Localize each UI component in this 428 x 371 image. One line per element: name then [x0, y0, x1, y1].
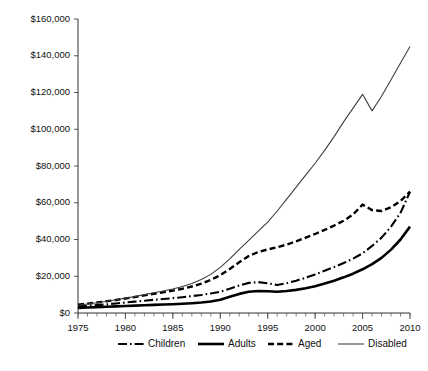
data-series-group [78, 47, 410, 308]
chart-legend: ChildrenAdultsAgedDisabled [118, 338, 407, 349]
chart-canvas: $0$20,000$40,000$60,000$80,000$100,000$1… [0, 0, 428, 371]
x-tick-label: 2000 [305, 322, 326, 333]
legend-label-disabled: Disabled [368, 338, 407, 349]
x-tick-label: 1980 [115, 322, 136, 333]
series-line-disabled [78, 47, 410, 306]
x-tick-label: 2010 [399, 322, 420, 333]
y-tick-label: $80,000 [36, 160, 70, 171]
y-tick-label: $140,000 [30, 49, 70, 60]
line-chart: $0$20,000$40,000$60,000$80,000$100,000$1… [0, 0, 428, 371]
series-line-children [78, 192, 410, 307]
y-axis-ticks [74, 19, 78, 313]
series-line-aged [78, 192, 410, 305]
y-tick-label: $100,000 [30, 123, 70, 134]
y-axis-tick-labels: $0$20,000$40,000$60,000$80,000$100,000$1… [30, 13, 70, 318]
x-tick-label: 1985 [162, 322, 183, 333]
y-tick-label: $120,000 [30, 86, 70, 97]
legend-label-children: Children [148, 338, 185, 349]
x-tick-label: 1995 [257, 322, 278, 333]
y-tick-label: $20,000 [36, 270, 70, 281]
legend-label-aged: Aged [298, 338, 321, 349]
y-tick-label: $40,000 [36, 233, 70, 244]
legend-label-adults: Adults [228, 338, 256, 349]
series-line-adults [78, 227, 410, 308]
x-tick-label: 2005 [352, 322, 373, 333]
x-axis-ticks [78, 313, 410, 319]
y-tick-label: $0 [59, 307, 70, 318]
x-axis-minor-ticks [78, 313, 410, 317]
x-tick-label: 1990 [210, 322, 231, 333]
y-tick-label: $60,000 [36, 196, 70, 207]
y-tick-label: $160,000 [30, 13, 70, 24]
x-axis-tick-labels: 19751980198519901995200020052010 [67, 322, 420, 333]
x-tick-label: 1975 [67, 322, 88, 333]
